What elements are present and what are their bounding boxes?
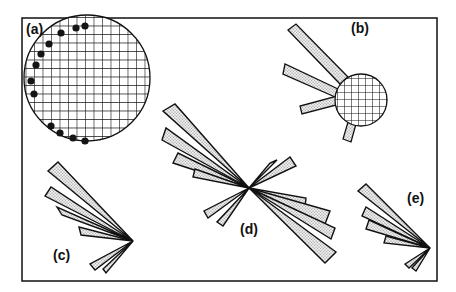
panel-d-rose — [162, 104, 336, 263]
panel-c-label: (c) — [53, 247, 70, 263]
panel-b-grain — [283, 24, 387, 142]
panel-d-label: (d) — [240, 221, 258, 237]
panel-e-label: (e) — [407, 190, 424, 206]
panel-a-label: (a) — [26, 21, 43, 37]
panel-b-label: (b) — [351, 20, 369, 36]
